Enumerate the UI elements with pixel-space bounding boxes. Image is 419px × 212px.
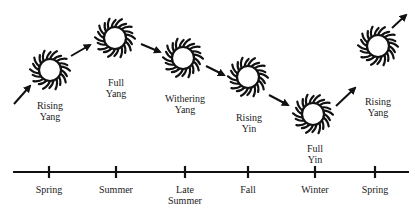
sun-ray — [33, 79, 43, 81]
arrow-out-of-rising-yang — [392, 15, 406, 28]
season-label-winter: Winter — [301, 184, 328, 195]
sun-icon-rising-yin — [228, 58, 268, 96]
sun-ray — [190, 47, 200, 49]
sun-ray — [98, 47, 108, 49]
sun-icon-full-yang — [95, 19, 135, 57]
sun-disc — [104, 27, 126, 49]
sun-ray — [255, 66, 265, 68]
arrow-into-rising-yang — [14, 86, 30, 104]
sun-disc — [302, 103, 324, 125]
phase-label-full-yang: Full Yang — [106, 77, 127, 99]
sun-ray — [231, 86, 241, 88]
season-label-late-summer: Late Summer — [168, 184, 202, 206]
sun-ray — [296, 123, 306, 125]
sun-icon-rising-yang-2 — [358, 27, 398, 65]
yin-yang-seasonal-cycle-diagram: Rising Yang Full Yang Withering Yang Ris… — [0, 0, 419, 212]
phase-label-withering-yang: Withering Yang — [165, 93, 205, 115]
sun-icon-full-yin — [293, 95, 333, 133]
arrow-rising-yin-to-full-yin — [269, 95, 288, 105]
arrow-withering-yang-to-rising-yin — [206, 66, 224, 75]
sun-ray — [122, 27, 132, 29]
sun-disc — [237, 66, 259, 88]
sun-icon-rising-yang — [30, 51, 70, 89]
sun-icon-withering-yang — [163, 39, 203, 77]
sun-ray — [385, 35, 395, 37]
sun-disc — [367, 35, 389, 57]
sun-ray — [320, 103, 330, 105]
season-label-spring-2: Spring — [362, 184, 389, 195]
phase-label-rising-yang: Rising Yang — [37, 100, 63, 122]
phase-label-rising-yin: Rising Yin — [236, 112, 262, 134]
season-label-fall: Fall — [240, 184, 256, 195]
sun-ray — [361, 55, 371, 57]
phase-label-full-yin: Full Yin — [307, 143, 323, 165]
arrow-rising-to-full-yang — [71, 45, 90, 56]
arrow-full-yin-to-rising-yang — [336, 88, 355, 106]
season-label-summer: Summer — [99, 184, 133, 195]
sun-disc — [39, 59, 61, 81]
phase-label-rising-yang-2: Rising Yang — [365, 96, 391, 118]
sun-disc — [172, 47, 194, 69]
arrow-full-to-withering-yang — [141, 44, 160, 52]
season-label-spring: Spring — [36, 184, 63, 195]
sun-ray — [57, 59, 67, 61]
sun-ray — [166, 67, 176, 69]
